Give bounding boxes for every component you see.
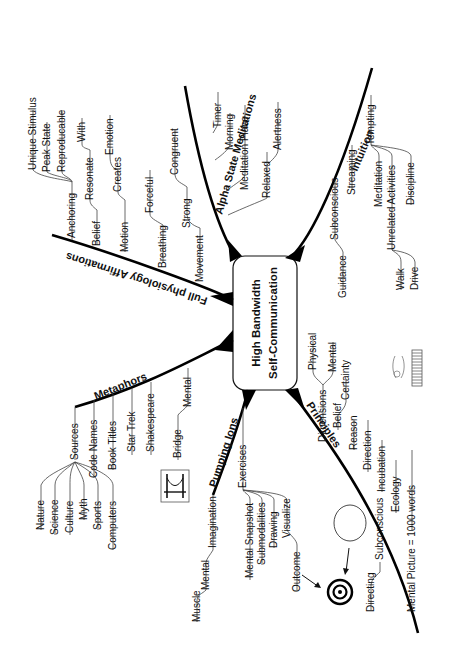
leaf-bridge: Bridge xyxy=(172,429,183,458)
leaf-emotion: Emotion xyxy=(104,118,115,155)
leaf-relaxed: Relaxed xyxy=(261,161,272,198)
leaf-unique-stimulus: Unique Stimulus xyxy=(27,97,38,170)
leaf-imagination: Imagination xyxy=(207,496,218,548)
leaf-subconscious-principles: Subconscious xyxy=(374,498,385,560)
leaf-timer: Timer xyxy=(212,102,223,128)
leaf-myth: Myth xyxy=(78,498,89,520)
leaf-mental-picture: Mental Picture = 1000 words xyxy=(406,485,417,612)
target-icon xyxy=(328,580,352,604)
leaf-drive: Drive xyxy=(409,266,420,290)
leaf-muscle: Muscle xyxy=(191,590,202,622)
leaf-resonate: Resonate xyxy=(84,157,95,200)
leaf-anchoring: Anchoring xyxy=(66,193,77,238)
leaf-congruent: Congruent xyxy=(169,128,180,175)
leaf-ecology: Ecology xyxy=(390,476,401,512)
leaf-code-names: Code Names xyxy=(88,420,99,478)
leaf-mental-principles: Mental xyxy=(327,342,338,372)
leaf-meditation: Meditation xyxy=(373,161,384,207)
leaf-alertness: Alertness xyxy=(272,108,283,150)
leaf-mental-pumping: Mental xyxy=(200,560,211,590)
leaf-dimensions: Dimensions xyxy=(317,390,328,442)
leaf-motion: Motion xyxy=(119,222,130,252)
leaf-mental-snapshot: Mental Snapshot xyxy=(244,503,255,578)
circle-icon xyxy=(334,505,366,541)
leaf-incubation: Incubation xyxy=(376,446,387,492)
bridge-icon xyxy=(161,470,189,502)
leaf-shakespeare: Shakespeare xyxy=(145,393,156,452)
leaf-meditation-place: Meditation Place xyxy=(239,116,250,190)
leaf-nature: Nature xyxy=(35,500,46,530)
leaf-belief-principles: Belief xyxy=(332,403,343,428)
leaf-streaming: Streaming xyxy=(346,149,357,195)
mind-map: High Bandwidth Self-Communication Alpha … xyxy=(0,0,453,651)
leaf-movement: Movement xyxy=(194,235,205,282)
leaf-directing: Directing xyxy=(365,573,376,612)
leaf-guidance: Guidance xyxy=(337,255,348,298)
leaf-unrelated-activities: Unrelated Activities xyxy=(386,165,397,250)
leaf-creates: Creates xyxy=(112,157,123,192)
leaf-exercises: Exercises xyxy=(237,445,248,488)
center-node: High Bandwidth Self-Communication xyxy=(233,256,297,390)
center-line2: Self-Communication xyxy=(267,267,279,379)
leaf-sources: Sources xyxy=(69,423,80,460)
principles-leaves: Dimensions Physical Mental Belief Certai… xyxy=(307,333,417,612)
leaf-strong: Strong xyxy=(181,199,192,228)
leaf-book-titles: Book Titles xyxy=(107,421,118,470)
leaf-visualize: Visualize xyxy=(281,498,292,538)
branch-pumping-label: Pumping Ions xyxy=(206,416,240,489)
leaf-outcome: Outcome xyxy=(291,551,302,592)
leaf-physical: Physical xyxy=(307,333,318,370)
leaf-forceful: Forceful xyxy=(144,177,155,213)
leaf-belief: Belief xyxy=(91,221,102,246)
leaf-subconscious-intuition: Subconscious xyxy=(329,178,340,240)
leaf-drawing: Drawing xyxy=(268,511,279,548)
leaf-morning: Morning xyxy=(224,114,235,150)
film-strip-icon xyxy=(393,350,422,386)
leaf-discipline: Discipline xyxy=(405,162,416,205)
intuition-leaves: Subconscious Guidance Streaming Tempting… xyxy=(329,95,420,298)
leaf-sports: Sports xyxy=(92,501,103,530)
leaf-star-trek: Star Trek xyxy=(126,410,137,452)
leaf-science: Science xyxy=(49,499,60,535)
leaf-peak-state: Peak State xyxy=(41,123,52,172)
leaf-computers: Computers xyxy=(107,501,118,550)
leaf-culture: Culture xyxy=(64,500,75,533)
branch-physiology-label: Full physiology Affirmations xyxy=(64,250,209,307)
leaf-walk: Walk xyxy=(395,267,406,290)
center-line1: High Bandwidth xyxy=(250,279,262,367)
branch-metaphors-label: Metaphors xyxy=(92,370,148,402)
leaf-mental: Mental xyxy=(182,377,193,407)
pumping-leaves: Exercises Mental Snapshot Submodalities … xyxy=(191,408,302,622)
leaf-direction: Direction xyxy=(362,431,373,470)
leaf-submodalities: Submodalities xyxy=(256,502,267,565)
leaf-breathing: Breathing xyxy=(157,225,168,268)
leaf-certainty: Certainty xyxy=(340,360,351,400)
leaf-reproducable: Reproducable xyxy=(56,109,67,172)
leaf-reason: Reason xyxy=(348,416,359,450)
leaf-with: With xyxy=(76,122,87,142)
leaf-tempting: Tempting xyxy=(365,104,376,145)
